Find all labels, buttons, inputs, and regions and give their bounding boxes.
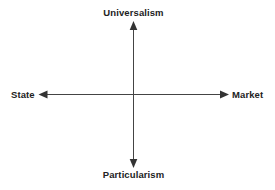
arrow-right-icon [220, 90, 229, 98]
axis-label-universalism: Universalism [0, 7, 271, 18]
arrow-down-icon [130, 159, 138, 168]
arrow-left-icon [39, 90, 48, 98]
axis-label-market: Market [232, 89, 263, 100]
arrow-up-icon [130, 21, 138, 30]
axis-label-particularism: Particularism [0, 169, 271, 180]
axis-diagram: Universalism Particularism State Market [0, 0, 275, 190]
axis-label-state: State [11, 89, 35, 100]
